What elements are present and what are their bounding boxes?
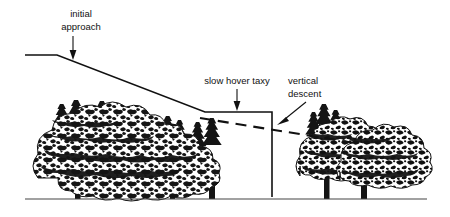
left-tree-group xyxy=(33,100,222,201)
vertical-descent-label-line1: vertical xyxy=(288,75,318,86)
initial-approach-arrowhead xyxy=(70,50,77,60)
vertical-descent-leader-line xyxy=(285,102,306,119)
initial-approach-label-line2: approach xyxy=(61,21,101,32)
initial-approach-label-line1: initial xyxy=(70,8,92,19)
vertical-descent-arrowhead xyxy=(277,117,289,125)
slow-hover-taxy-label: slow hover taxy xyxy=(204,75,270,86)
label-initial-approach: initial approach xyxy=(61,8,101,60)
canopy-mass-left xyxy=(33,102,220,201)
slow-hover-taxy-arrowhead xyxy=(234,101,241,111)
right-tree-group xyxy=(296,104,432,199)
label-slow-hover-taxy: slow hover taxy xyxy=(204,75,270,111)
vertical-descent-label-line2: descent xyxy=(288,88,322,99)
approach-profile-illustration: initial approach slow hover taxy vertica… xyxy=(0,0,450,217)
diagram-root: initial approach slow hover taxy vertica… xyxy=(0,0,450,217)
